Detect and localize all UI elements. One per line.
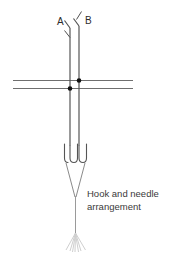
needle-a-hook-icon	[65, 21, 71, 29]
intersection-dot-b	[77, 78, 82, 83]
loop-arrangement-group	[65, 144, 87, 163]
needle-a-barb-icon	[65, 31, 71, 38]
caption-line-1: Hook and needle	[87, 188, 185, 201]
tassel	[66, 233, 86, 252]
hook-and-needle-diagram	[0, 0, 187, 255]
figure-caption: Hook and needle arrangement	[87, 188, 185, 213]
loop-right	[79, 144, 87, 163]
intersection-dot-a	[68, 86, 73, 91]
convergence-left-strand	[66, 163, 75, 197]
caption-line-2: arrangement	[87, 201, 185, 214]
needle-b-hook-icon	[74, 19, 80, 27]
tick-mark-icon	[77, 12, 82, 20]
convergence-v	[66, 163, 85, 197]
needle-a-label: A	[57, 17, 64, 27]
needle-b-label: B	[85, 16, 92, 26]
loop-inner-left	[65, 144, 69, 163]
needle-a	[65, 21, 71, 147]
horizontal-lines-group	[13, 81, 133, 89]
figure-container: A B Hook and needle arrangement	[0, 0, 187, 255]
loop-left	[70, 144, 78, 163]
convergence-right-strand	[76, 163, 85, 197]
